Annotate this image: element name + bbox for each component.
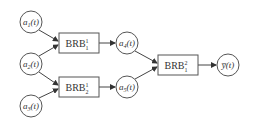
brb-box-1-2: BRB12 [59,77,99,97]
svg-text:a3(t): a3(t) [23,101,39,112]
svg-text:a5(t): a5(t) [119,82,135,93]
edge-a5-brb21 [135,67,157,79]
input-node-a3: a3(t) [20,95,42,117]
edge-a2-brb12 [39,72,58,85]
input-node-a1: a1(t) [20,11,42,33]
brb-box-2-1: BRB21 [158,55,198,75]
output-node-y: y̅(t) [217,54,239,76]
edge-a4-brb21 [135,51,157,63]
input-node-a2: a2(t) [20,53,42,75]
diagram-canvas: a1(t) a2(t) a3(t) BRB11 BRB12 a4(t) a5(t… [0,0,257,128]
edge-a2-brb11 [39,45,58,56]
edge-a3-brb12 [39,89,58,98]
brb-box-1-1: BRB11 [59,33,99,53]
svg-text:a2(t): a2(t) [23,59,39,70]
intermediate-node-a5: a5(t) [116,76,138,98]
intermediate-node-a4: a4(t) [116,32,138,54]
svg-text:a4(t): a4(t) [119,38,135,49]
edge-a1-brb11 [39,30,58,41]
svg-text:y̅(t): y̅(t) [221,60,235,70]
svg-text:a1(t): a1(t) [23,17,39,28]
